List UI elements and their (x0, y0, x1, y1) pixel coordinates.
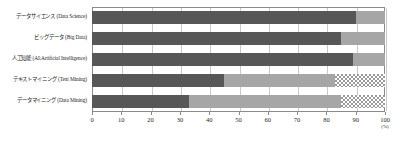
x-tick-label: 40 (206, 116, 213, 124)
x-axis: 0102030405060708090100(%) (92, 112, 385, 134)
x-tick-mark (239, 112, 240, 115)
gridline-100 (386, 8, 387, 111)
x-tick-mark (92, 112, 93, 115)
horizontal-bar-chart: データサイエンス (Data Science)ビッグデータ (Big Data)… (0, 0, 407, 146)
bar-track (92, 11, 385, 24)
x-tick-label: 30 (177, 116, 184, 124)
x-tick-mark (209, 112, 210, 115)
bar-row (92, 28, 385, 49)
x-tick-label: 70 (294, 116, 301, 124)
category-axis-labels: データサイエンス (Data Science)ビッグデータ (Big Data)… (0, 7, 90, 112)
bar-segment-segment-mid (189, 95, 341, 108)
x-tick-label: 90 (352, 116, 359, 124)
x-axis-unit-label: (%) (381, 124, 389, 130)
x-tick-mark (180, 112, 181, 115)
bar-segment-segment-dark (92, 95, 189, 108)
x-tick-mark (297, 112, 298, 115)
bar-row (92, 7, 385, 28)
x-tick-label: 0 (90, 116, 93, 124)
x-tick-label: 100 (380, 116, 390, 124)
bar-rows (92, 7, 385, 112)
x-tick-mark (385, 112, 386, 115)
bar-track (92, 95, 385, 108)
x-tick-label: 10 (118, 116, 125, 124)
category-label: ビッグデータ (Big Data) (0, 34, 87, 41)
bar-segment-segment-mid (353, 53, 385, 66)
category-label: データマイニング (Data Mining) (0, 97, 87, 104)
x-tick-label: 80 (323, 116, 330, 124)
bar-segment-segment-hatch (341, 95, 385, 108)
bar-segment-segment-mid (341, 32, 385, 45)
bar-segment-segment-mid (224, 74, 335, 87)
bar-track (92, 53, 385, 66)
bar-segment-segment-dark (92, 11, 356, 24)
bar-segment-segment-dark (92, 53, 353, 66)
x-tick-label: 20 (147, 116, 154, 124)
x-tick-mark (151, 112, 152, 115)
category-label: 人工知能 (AI:Artificial Intelligence) (0, 55, 87, 62)
bar-track (92, 74, 385, 87)
x-tick-label: 50 (235, 116, 242, 124)
x-tick-mark (268, 112, 269, 115)
x-tick-mark (356, 112, 357, 115)
category-label: データサイエンス (Data Science) (0, 13, 87, 20)
x-tick-mark (326, 112, 327, 115)
bar-segment-segment-dark (92, 32, 341, 45)
x-tick-label: 60 (265, 116, 272, 124)
x-tick-mark (121, 112, 122, 115)
bar-segment-segment-hatch (335, 74, 385, 87)
bar-row (92, 70, 385, 91)
bar-segment-segment-dark (92, 74, 224, 87)
bar-row (92, 91, 385, 112)
bar-segment-segment-mid (356, 11, 385, 24)
category-label: テキストマイニング (Text Mining) (0, 76, 87, 83)
bar-row (92, 49, 385, 70)
bar-track (92, 32, 385, 45)
